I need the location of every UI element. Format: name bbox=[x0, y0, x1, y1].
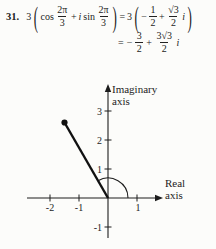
equation-line-2: = − 32 + 3√32 i bbox=[118, 30, 214, 54]
minus-sign: − bbox=[127, 37, 133, 48]
equals-sign: = bbox=[118, 37, 124, 48]
textbook-page: 31. 3 ( cos 2π3 + i sin 2π3 ) = 3 ( − 12… bbox=[0, 0, 216, 249]
imaginary-unit: i bbox=[176, 37, 179, 48]
y-tick-label-2: 2 bbox=[97, 135, 102, 146]
y-tick-label-3: 3 bbox=[97, 106, 102, 117]
imaginary-unit: i bbox=[79, 11, 82, 22]
plus-sign: + bbox=[146, 37, 152, 48]
complex-number-point bbox=[61, 119, 67, 125]
equals-sign: = bbox=[119, 11, 125, 22]
right-paren: ) bbox=[113, 1, 117, 30]
x-tick-label-neg1: -1 bbox=[75, 202, 83, 213]
imaginary-axis-arrowhead-icon bbox=[105, 84, 111, 92]
minus-sign: − bbox=[141, 11, 147, 22]
coefficient: 3 bbox=[127, 11, 132, 22]
problem-number: 31. bbox=[6, 11, 19, 22]
imaginary-unit: i bbox=[182, 11, 185, 22]
fraction-sqrt3-2: √32 bbox=[167, 4, 181, 28]
plus-sign: + bbox=[159, 11, 165, 22]
complex-plane-graph: -2 -1 1 3 2 1 -1 Imaginary axis Real axi… bbox=[0, 79, 216, 249]
real-axis-title-line1: Real bbox=[165, 177, 185, 189]
left-paren: ( bbox=[34, 1, 38, 30]
y-tick-label-neg1: -1 bbox=[94, 222, 102, 233]
imaginary-axis-title-line2: axis bbox=[112, 95, 130, 107]
cos-label: cos bbox=[40, 11, 53, 22]
right-paren: ) bbox=[187, 1, 191, 30]
real-axis-arrowhead-icon bbox=[155, 195, 163, 201]
real-axis-title-line2: axis bbox=[165, 189, 183, 201]
fraction-3sqrt3-2: 3√32 bbox=[155, 30, 174, 54]
coefficient: 3 bbox=[26, 11, 31, 22]
equation-line-1: 31. 3 ( cos 2π3 + i sin 2π3 ) = 3 ( − 12… bbox=[6, 4, 214, 28]
fraction-3-2: 32 bbox=[135, 30, 143, 54]
plus-sign: + bbox=[71, 11, 77, 22]
fraction-2pi-3: 2π3 bbox=[97, 4, 110, 28]
left-paren: ( bbox=[135, 1, 139, 30]
x-tick-label-neg2: -2 bbox=[46, 202, 54, 213]
y-tick-label-1: 1 bbox=[97, 164, 102, 175]
equation-block: 31. 3 ( cos 2π3 + i sin 2π3 ) = 3 ( − 12… bbox=[6, 4, 214, 54]
fraction-2pi-3: 2π3 bbox=[56, 4, 69, 28]
sin-label: sin bbox=[83, 11, 95, 22]
fraction-1-2: 12 bbox=[149, 4, 157, 28]
x-tick-label-1: 1 bbox=[136, 202, 141, 213]
imaginary-axis-title-line1: Imaginary bbox=[112, 83, 158, 95]
